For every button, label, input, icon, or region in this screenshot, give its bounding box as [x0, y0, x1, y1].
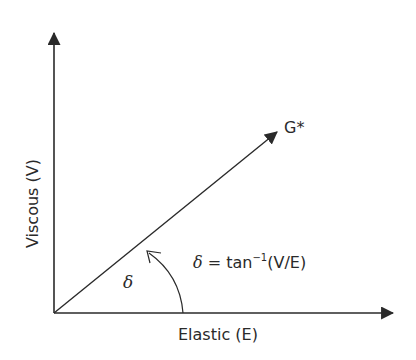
formula-lhs: δ [193, 253, 203, 272]
y-axis-label: Viscous (V) [23, 159, 42, 248]
formula-eq: = tan [203, 253, 253, 272]
formula-rhs: (V/E) [267, 253, 306, 272]
phase-angle-diagram: G* Viscous (V) Elastic (E) δ δ = tan−1(V… [0, 0, 416, 360]
angle-arc-icon [149, 253, 183, 313]
phase-angle-formula: δ = tan−1(V/E) [193, 252, 306, 272]
formula-sup: −1 [252, 252, 267, 263]
vector-label: G* [284, 118, 304, 137]
angle-symbol: δ [123, 272, 133, 292]
x-axis-label: Elastic (E) [178, 325, 258, 344]
g-star-vector [54, 132, 277, 313]
